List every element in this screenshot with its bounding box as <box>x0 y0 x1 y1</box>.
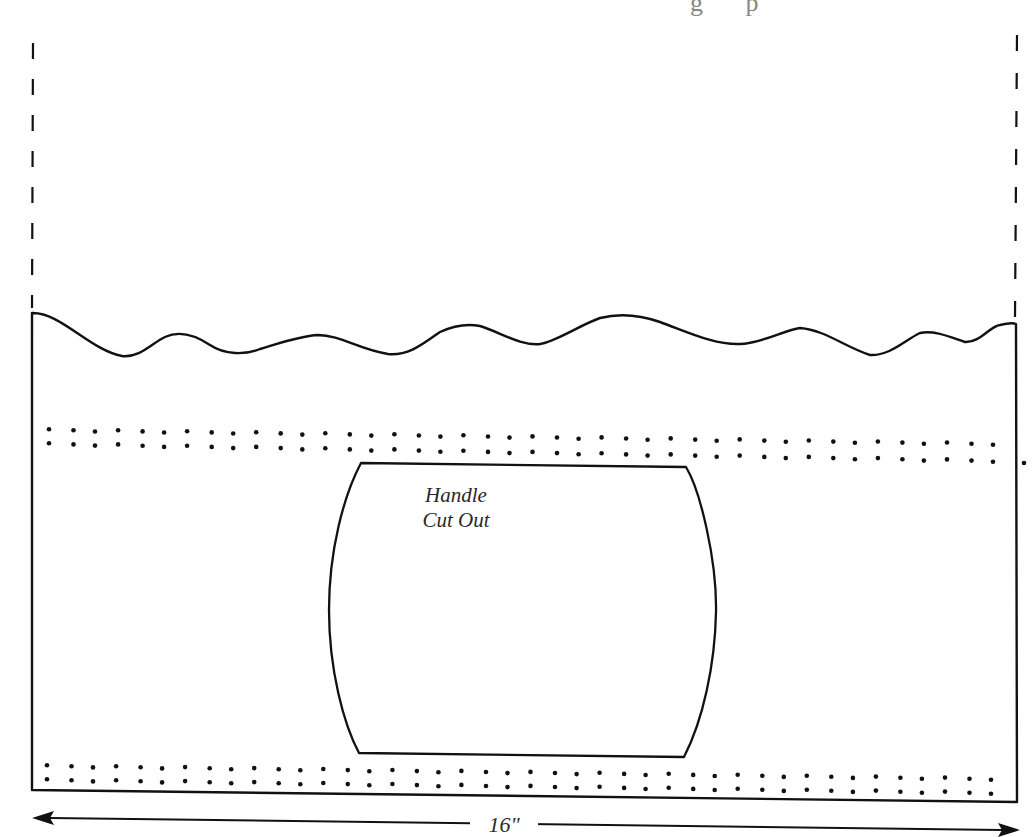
dot <box>991 443 996 448</box>
dot <box>392 447 397 452</box>
stray-dot <box>1022 461 1027 466</box>
dot <box>185 443 190 448</box>
dot <box>348 447 353 452</box>
dot <box>114 778 119 783</box>
dot <box>390 782 395 787</box>
dot <box>712 774 717 779</box>
dot <box>874 788 879 793</box>
dot <box>829 775 834 780</box>
handle-cutout-outline <box>329 463 716 757</box>
dot <box>530 434 535 439</box>
dot <box>276 767 281 772</box>
dot <box>321 781 326 786</box>
dot <box>415 783 420 788</box>
dot <box>183 779 188 784</box>
dot <box>876 456 881 461</box>
dot <box>805 773 810 778</box>
dot <box>528 770 533 775</box>
pattern-diagram <box>0 0 1035 837</box>
dot <box>231 431 236 436</box>
dot <box>486 450 491 455</box>
dot <box>693 453 698 458</box>
dot <box>209 430 214 435</box>
dot <box>967 790 972 795</box>
dot <box>459 769 464 774</box>
dot <box>945 457 950 462</box>
dot <box>484 770 489 775</box>
dot <box>691 773 696 778</box>
dot <box>298 768 303 773</box>
dot <box>989 792 994 797</box>
dot <box>254 445 259 450</box>
dot <box>853 441 858 446</box>
dot <box>874 774 879 779</box>
dot <box>900 457 905 462</box>
dot <box>71 428 76 433</box>
dot <box>737 453 742 458</box>
dot <box>507 435 512 440</box>
dot <box>183 765 188 770</box>
dot <box>643 787 648 792</box>
dot <box>922 442 927 447</box>
dot <box>369 433 374 438</box>
dot <box>991 460 996 465</box>
dot <box>47 427 52 432</box>
dot <box>390 768 395 773</box>
dot <box>555 435 560 440</box>
dot <box>93 443 98 448</box>
dot <box>576 452 581 457</box>
dot <box>624 452 629 457</box>
dot <box>484 784 489 789</box>
dot <box>784 439 789 444</box>
dot <box>989 778 994 783</box>
dot <box>805 787 810 792</box>
dot <box>574 772 579 777</box>
dot <box>116 428 121 433</box>
dot <box>93 429 98 434</box>
dot <box>415 769 420 774</box>
dot <box>945 440 950 445</box>
dot <box>417 433 422 438</box>
dot <box>876 439 881 444</box>
dot <box>898 775 903 780</box>
dot <box>760 788 765 793</box>
dot <box>207 780 212 785</box>
dot <box>461 448 466 453</box>
dot <box>851 776 856 781</box>
dot <box>643 773 648 778</box>
dot <box>807 455 812 460</box>
dot <box>645 453 650 458</box>
dot <box>943 789 948 794</box>
dot <box>760 774 765 779</box>
dot <box>276 781 281 786</box>
dot <box>438 434 443 439</box>
dot <box>505 785 510 790</box>
dot <box>691 787 696 792</box>
dot <box>762 438 767 443</box>
dot <box>71 442 76 447</box>
dot <box>185 429 190 434</box>
dot <box>229 767 234 772</box>
dot <box>666 786 671 791</box>
dot <box>553 771 558 776</box>
dot <box>369 448 374 453</box>
dot <box>831 439 836 444</box>
dot <box>599 451 604 456</box>
dot <box>851 790 856 795</box>
dot <box>943 775 948 780</box>
dot <box>486 434 491 439</box>
dot <box>229 781 234 786</box>
dot <box>969 458 974 463</box>
dot <box>555 451 560 456</box>
handle-label-line1: Handle <box>396 483 516 508</box>
dot <box>346 768 351 773</box>
dot <box>597 785 602 790</box>
dot <box>278 446 283 451</box>
dot <box>348 432 353 437</box>
dot <box>576 436 581 441</box>
dot <box>47 441 52 446</box>
dot <box>209 445 214 450</box>
dot <box>300 447 305 452</box>
handle-cutout-label: Handle Cut Out <box>396 483 516 533</box>
dot <box>138 779 143 784</box>
